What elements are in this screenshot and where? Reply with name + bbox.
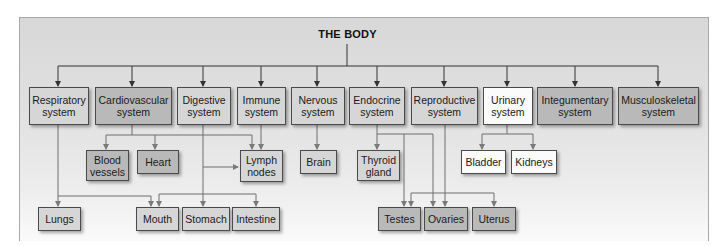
node-thyroid-gland: Thyroidgland — [357, 150, 400, 181]
node-heart: Heart — [137, 150, 179, 174]
node-immune-system: Immunesystem — [237, 87, 286, 125]
node-label-line1: Endocrine — [353, 94, 400, 106]
node-label-line2: system — [32, 106, 86, 118]
node-endocrine-system: Endocrinesystem — [349, 87, 405, 125]
node-respiratory-system: Respiratorysystem — [29, 87, 89, 125]
node-label-line1: Nervous — [298, 94, 337, 106]
node-label-line1: Immune — [243, 94, 281, 106]
node-label-line1: Musculoskeletal — [621, 94, 696, 106]
node-label-line1: Reproductive — [414, 94, 476, 106]
node-testes: Testes — [378, 207, 421, 231]
node-label-line2: system — [491, 106, 525, 118]
node-integumentary-system: Integumentarysystem — [537, 87, 613, 125]
node-label-line2: system — [298, 106, 337, 118]
root-node-the-body: THE BODY — [300, 28, 395, 40]
node-lymph-nodes: Lymphnodes — [240, 150, 283, 182]
node-digestive-system: Digestivesystem — [177, 87, 231, 125]
node-brain: Brain — [300, 150, 337, 174]
node-label-line1: Blood — [90, 154, 125, 166]
node-label-line2: nodes — [246, 166, 277, 178]
node-label-line1: Urinary — [491, 94, 525, 106]
node-stomach: Stomach — [182, 207, 230, 231]
node-mouth: Mouth — [136, 207, 179, 231]
node-musculoskeletal-system: Musculoskeletalsystem — [618, 87, 699, 125]
node-label-line2: system — [541, 106, 608, 118]
node-label-line2: system — [621, 106, 696, 118]
node-label-line2: system — [353, 106, 400, 118]
node-label-line1: Thyroid — [361, 154, 396, 166]
node-label-line1: Lymph — [246, 154, 277, 166]
node-reproductive-system: Reproductivesystem — [411, 87, 478, 125]
node-nervous-system: Nervoussystem — [291, 87, 345, 125]
node-intestine: Intestine — [232, 207, 280, 231]
node-label-line1: Integumentary — [541, 94, 608, 106]
node-label-line2: system — [414, 106, 476, 118]
node-label-line2: system — [243, 106, 281, 118]
node-label-line2: gland — [361, 166, 396, 178]
node-blood-vessels: Bloodvessels — [86, 150, 129, 181]
node-label-line2: vessels — [90, 166, 125, 178]
node-ovaries: Ovaries — [424, 207, 468, 231]
node-lungs: Lungs — [38, 207, 81, 231]
node-urinary-system: Urinarysystem — [483, 87, 533, 125]
node-bladder: Bladder — [461, 150, 506, 174]
node-label-line1: Respiratory — [32, 94, 86, 106]
node-uterus: Uterus — [472, 207, 516, 231]
node-label-line1: Cardiovascular — [98, 94, 168, 106]
node-label-line1: Digestive — [182, 94, 225, 106]
node-label-line2: system — [182, 106, 225, 118]
node-kidneys: Kidneys — [511, 150, 557, 174]
node-cardiovascular-system: Cardiovascularsystem — [95, 87, 172, 125]
node-label-line2: system — [98, 106, 168, 118]
